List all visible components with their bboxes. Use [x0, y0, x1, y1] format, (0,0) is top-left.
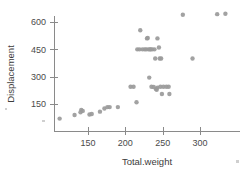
- data-point: [153, 56, 157, 60]
- data-point: [134, 100, 138, 104]
- data-point: [155, 36, 159, 40]
- x-tick-label: 250: [155, 138, 170, 148]
- speck: [5, 108, 7, 110]
- data-point: [152, 47, 156, 51]
- data-point: [107, 105, 111, 109]
- data-point: [72, 113, 76, 117]
- y-tick-label: 300: [31, 72, 46, 82]
- data-point: [146, 36, 150, 40]
- y-tick-label: 450: [31, 45, 46, 55]
- data-point: [167, 92, 171, 96]
- scatter-plot-figure: 150300450600 150200250300 Total.weight D…: [0, 0, 248, 174]
- data-point: [181, 13, 185, 17]
- y-axis-ticks: 150300450600: [31, 17, 58, 109]
- data-point: [98, 109, 102, 113]
- data-point: [190, 56, 194, 60]
- x-tick-label: 150: [80, 138, 95, 148]
- decorative-specks: [5, 108, 239, 163]
- axis-lines: [54, 16, 240, 132]
- data-point: [131, 84, 135, 88]
- data-point: [90, 112, 94, 116]
- data-point: [160, 92, 164, 96]
- data-point: [166, 84, 170, 88]
- data-point: [215, 12, 219, 16]
- data-point: [223, 12, 227, 16]
- data-point: [116, 105, 120, 109]
- data-point: [81, 109, 85, 113]
- y-axis-title: Displacement: [5, 45, 16, 103]
- data-points-layer: [57, 12, 227, 121]
- y-tick-label: 600: [31, 17, 46, 27]
- data-point: [157, 45, 161, 49]
- speck: [236, 160, 239, 163]
- x-tick-label: 300: [192, 138, 207, 148]
- speck: [42, 120, 45, 122]
- x-axis-ticks: 150200250300: [80, 127, 207, 148]
- data-point: [138, 28, 142, 32]
- x-tick-label: 200: [118, 138, 133, 148]
- y-tick-label: 150: [31, 99, 46, 109]
- x-axis-title: Total.weight: [122, 156, 173, 167]
- data-point: [147, 75, 151, 79]
- data-point: [159, 56, 163, 60]
- data-point: [57, 116, 61, 120]
- plot-canvas: 150300450600 150200250300 Total.weight D…: [0, 0, 248, 174]
